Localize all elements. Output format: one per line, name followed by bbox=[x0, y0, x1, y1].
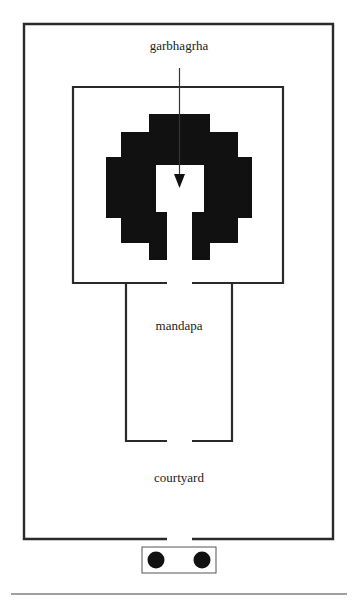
pillar-icon bbox=[194, 552, 211, 569]
label-garbhagrha: garbhagrha bbox=[150, 38, 209, 53]
entrance-porch bbox=[142, 547, 216, 573]
label-courtyard: courtyard bbox=[154, 470, 204, 485]
temple-plan-diagram: garbhagrha mandapa courtyard bbox=[0, 0, 356, 603]
pillar-icon bbox=[148, 552, 165, 569]
outer-enclosure bbox=[24, 24, 333, 539]
mandapa-hall bbox=[126, 283, 232, 441]
label-mandapa: mandapa bbox=[156, 318, 203, 333]
